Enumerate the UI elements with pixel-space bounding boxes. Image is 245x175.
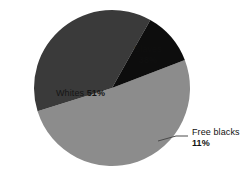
pie-label-free-blacks-name: Free blacks: [192, 127, 240, 138]
pie-chart-canvas: [0, 0, 245, 175]
pie-label-free-blacks: Free blacks 11%: [192, 127, 240, 148]
pie-label-whites: Whites 51%: [56, 88, 105, 99]
pie-label-free-blacks-value: 11%: [192, 138, 240, 149]
pie-label-slaves-value: 38%: [139, 55, 157, 65]
pie-chart: Slaves 38% Whites 51% Free blacks 11%: [0, 0, 245, 175]
pie-label-slaves-name: Slaves: [134, 44, 162, 54]
pie-label-whites-value: 51%: [87, 88, 105, 98]
pie-label-slaves: Slaves 38%: [126, 44, 170, 65]
pie-label-whites-name: Whites: [56, 88, 84, 98]
